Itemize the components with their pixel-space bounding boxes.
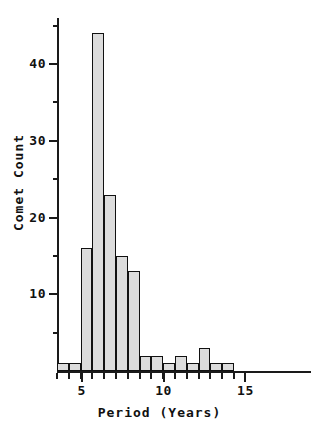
histogram-bar	[81, 248, 93, 371]
x-axis-tick-label: 5	[77, 383, 85, 398]
histogram-bar	[116, 256, 128, 371]
x-axis-tick-minor	[221, 373, 223, 379]
x-axis-tick-minor	[127, 373, 129, 379]
histogram-bar	[69, 363, 81, 371]
histogram-chart: 10203040 51015 Period (Years) Comet Coun…	[0, 0, 319, 432]
x-axis-title: Period (Years)	[0, 405, 319, 420]
x-axis-tick-minor	[115, 373, 117, 379]
histogram-bar	[140, 356, 152, 371]
histogram-bar	[104, 195, 116, 372]
histogram-bar	[57, 363, 69, 371]
histogram-bar	[92, 33, 104, 371]
x-axis-tick-minor	[174, 373, 176, 379]
x-axis-tick-minor	[198, 373, 200, 379]
x-axis-tick-major	[81, 373, 83, 382]
x-axis-tick-minor	[209, 373, 211, 379]
x-axis-tick-minor	[139, 373, 141, 379]
x-axis-tick-minor	[91, 373, 93, 379]
x-axis-tick-minor	[103, 373, 105, 379]
bars-layer	[0, 0, 319, 432]
x-axis-tick-label: 15	[237, 383, 254, 398]
x-axis-tick-minor	[68, 373, 70, 379]
x-axis-tick-major	[163, 373, 165, 382]
histogram-bar	[210, 363, 222, 371]
x-axis-line	[57, 371, 311, 373]
x-axis-tick-minor	[150, 373, 152, 379]
x-axis-tick-minor	[186, 373, 188, 379]
y-axis-title: Comet Count	[11, 103, 26, 263]
histogram-bar	[187, 363, 199, 371]
x-axis-tick-minor	[233, 373, 235, 379]
histogram-bar	[151, 356, 163, 371]
x-axis-tick-label: 10	[155, 383, 172, 398]
x-axis-tick-minor	[56, 373, 58, 379]
x-axis-tick-major	[244, 373, 246, 382]
histogram-bar	[163, 363, 175, 371]
histogram-bar	[199, 348, 211, 371]
histogram-bar	[128, 271, 140, 371]
histogram-bar	[222, 363, 234, 371]
histogram-bar	[175, 356, 187, 371]
